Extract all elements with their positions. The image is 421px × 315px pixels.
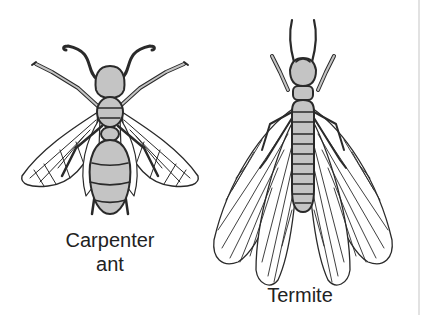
figure-canvas: Carpenter ant Termite <box>0 0 421 315</box>
carpenter-ant-illustration <box>22 46 199 214</box>
page-edge-divider <box>418 0 420 315</box>
carpenter-ant-label-line1: Carpenter <box>40 228 180 252</box>
termite-label: Termite <box>240 283 360 307</box>
termite-illustration <box>214 20 393 285</box>
termite-label-line1: Termite <box>240 283 360 307</box>
carpenter-ant-label-line2: ant <box>40 252 180 276</box>
carpenter-ant-label: Carpenter ant <box>40 228 180 276</box>
